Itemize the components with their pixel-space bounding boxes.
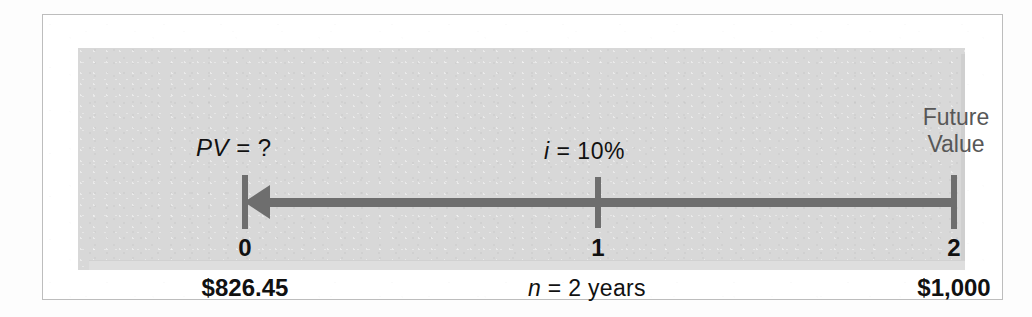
future-value-label: FutureValue <box>898 104 1014 158</box>
future-value-label-line2: Value <box>927 131 984 157</box>
timeline-tick-0 <box>242 175 248 229</box>
timeline-tick-1 <box>595 177 601 228</box>
figure-root: PV = ? i = 10% FutureValue 0 1 2 $826.45… <box>0 0 1032 317</box>
present-value-label: PV = ? <box>196 134 272 162</box>
present-value-equation: = ? <box>229 134 272 161</box>
number-of-periods-symbol: n <box>528 275 541 301</box>
interest-rate-equation: = 10% <box>550 138 625 164</box>
timeline-tick-2 <box>951 175 957 229</box>
interest-rate-label: i = 10% <box>544 138 625 165</box>
period-number-2: 2 <box>924 234 984 262</box>
present-value-symbol: PV <box>196 134 229 161</box>
future-value-amount: $1,000 <box>874 274 1032 302</box>
number-of-periods-label: n = 2 years <box>528 275 646 302</box>
number-of-periods-equation: = 2 years <box>541 275 646 301</box>
timeline-panel: PV = ? i = 10% FutureValue 0 1 2 $826.45… <box>78 48 965 270</box>
timeline-axis-line <box>262 198 954 207</box>
period-number-1: 1 <box>568 234 628 262</box>
future-value-label-line1: Future <box>923 104 989 130</box>
period-number-0: 0 <box>215 234 275 262</box>
present-value-amount: $826.45 <box>165 274 325 302</box>
